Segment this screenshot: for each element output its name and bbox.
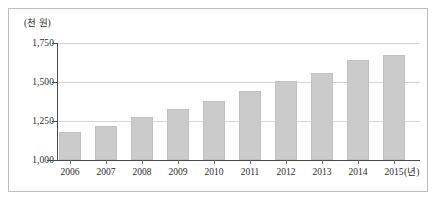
gridline-1750 <box>58 43 420 44</box>
bar-2012 <box>275 81 297 160</box>
x-tick-mark-2010 <box>214 160 215 164</box>
bar-2006 <box>59 132 81 160</box>
x-tick-label-2006: 2006 <box>52 167 88 178</box>
bar-2007 <box>95 126 117 160</box>
x-tick-mark-2006 <box>70 160 71 164</box>
y-tick-label-1250: 1,250 <box>8 116 54 126</box>
x-tick-label-2009: 2009 <box>160 167 196 178</box>
x-tick-mark-2013 <box>322 160 323 164</box>
chart-figure: (천 원) 1,750 1,500 1,250 1,000 2006200720… <box>0 0 439 201</box>
x-tick-mark-2012 <box>286 160 287 164</box>
x-axis-line <box>47 160 420 161</box>
bar-2008 <box>131 117 153 160</box>
x-tick-mark-2007 <box>106 160 107 164</box>
x-tick-label-2007: 2007 <box>88 167 124 178</box>
bar-2010 <box>203 101 225 160</box>
x-axis-unit-label: (년) <box>404 167 419 178</box>
x-tick-mark-2014 <box>358 160 359 164</box>
bar-2014 <box>347 60 369 160</box>
bar-2015 <box>383 55 405 160</box>
bar-2009 <box>167 109 189 160</box>
y-axis-tick-labels: 1,750 1,500 1,250 1,000 <box>4 0 54 201</box>
y-tick-label-1750: 1,750 <box>8 38 54 48</box>
bar-2013 <box>311 73 333 160</box>
x-tick-label-2008: 2008 <box>124 167 160 178</box>
x-tick-mark-2015 <box>394 160 395 164</box>
x-tick-mark-2011 <box>250 160 251 164</box>
x-tick-label-2011: 2011 <box>232 167 268 178</box>
x-tick-label-2013: 2013 <box>304 167 340 178</box>
bar-2011 <box>239 91 261 160</box>
x-tick-label-2010: 2010 <box>196 167 232 178</box>
y-tick-label-1500: 1,500 <box>8 77 54 87</box>
x-tick-mark-2008 <box>142 160 143 164</box>
x-tick-label-2012: 2012 <box>268 167 304 178</box>
x-tick-label-2014: 2014 <box>340 167 376 178</box>
x-tick-mark-2009 <box>178 160 179 164</box>
